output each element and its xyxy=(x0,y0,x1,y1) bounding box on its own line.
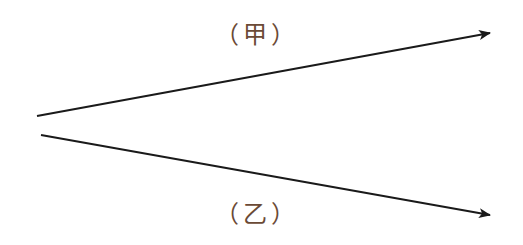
label-jia: （甲） xyxy=(215,15,299,50)
diagram-canvas: （甲） （乙） xyxy=(0,0,523,245)
label-yi: （乙） xyxy=(215,194,299,229)
